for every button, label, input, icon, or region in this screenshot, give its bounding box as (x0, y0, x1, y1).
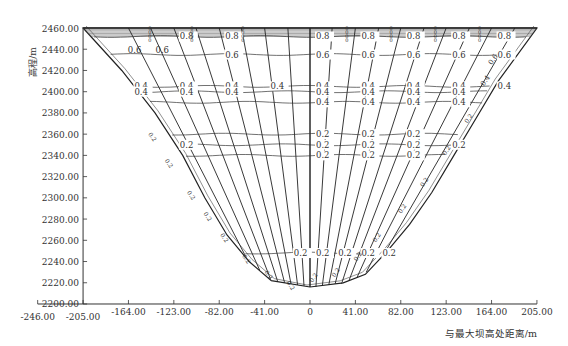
crest-contour-label: 0 (434, 37, 437, 43)
y-tick-label: 2240.00 (42, 257, 79, 267)
contour-label: 0.8 (498, 31, 512, 41)
svg-text:0.6: 0.6 (155, 45, 169, 55)
contour-label: 0.4 (407, 97, 421, 107)
flank-contour-label: 0.2 (371, 231, 382, 243)
x-tick-label: -205.00 (66, 312, 101, 322)
y-tick-label: 2420.00 (42, 66, 79, 76)
x-tick-label: -246.00 (20, 312, 55, 322)
contour-label: 0.8 (361, 31, 375, 41)
crest-contour-label: 0 (148, 37, 151, 43)
y-tick-label: 2440.00 (42, 45, 79, 55)
contour-label: 0.4 (316, 97, 330, 107)
flank-contour-label: 0.2 (186, 189, 197, 201)
y-tick-label: 2300.00 (42, 193, 79, 203)
y-tick-label: 2400.00 (42, 87, 79, 97)
x-tick-label: 0 (307, 307, 313, 317)
contour-label: 0.2 (361, 248, 375, 258)
contour-label: 0.2 (361, 129, 375, 139)
y-tick-label: 2280.00 (42, 215, 79, 225)
x-tick-label: -41.00 (250, 307, 279, 317)
x-tick-label: 41.00 (343, 307, 369, 317)
flank-contour-label: 0.2 (396, 202, 407, 214)
crest-contour-label: 0 (389, 37, 392, 43)
y-tick-label: 2380.00 (42, 108, 79, 118)
flank-contour-label: 0.2 (286, 279, 297, 291)
contour-label: 0.8 (316, 31, 330, 41)
contour-label: 0.2 (338, 248, 352, 258)
contour-label: 0.6 (407, 50, 421, 60)
y-tick-label: 2200.00 (42, 299, 79, 309)
contour-label: 0.2 (316, 140, 330, 150)
svg-text:0.6: 0.6 (128, 45, 142, 55)
y-tick-label: 2360.00 (42, 130, 79, 140)
crest-contour-label: 0 (190, 37, 193, 43)
x-tick-label: -123.00 (157, 307, 192, 317)
contour-label: 0.2 (361, 150, 375, 160)
y-tick-label: 2320.00 (42, 172, 79, 182)
section-line (151, 28, 260, 270)
x-tick-label: 123.00 (430, 307, 462, 317)
contour-label: 0.8 (407, 31, 421, 41)
contour-label: 0.2 (407, 150, 421, 160)
flank-contour-label: 0.2 (263, 269, 274, 281)
contour-label: 0.4 (498, 81, 512, 91)
x-axis-label: 与最大坝高处距离/m (445, 328, 537, 339)
contour-label: 0.4 (225, 87, 239, 97)
contour-label: 0.2 (316, 248, 330, 258)
flank-contour-label: 0.2 (164, 157, 175, 169)
contour-label: 0.2 (316, 150, 330, 160)
contour-label: 0.4 (180, 87, 194, 97)
y-tick-label: 2340.00 (42, 151, 79, 161)
crest-contour-label: 0 (478, 37, 481, 43)
contour-label: 0.2 (382, 248, 396, 258)
contour-label: 0.2 (361, 140, 375, 150)
x-tick-label: 164.00 (476, 307, 508, 317)
contour-label: 0.4 (452, 87, 466, 97)
crest-contour-label: 0 (345, 37, 348, 43)
contour-label: 0.6 (452, 50, 466, 60)
contour-label: 0.2 (407, 129, 421, 139)
y-tick-label: 2460.00 (42, 24, 79, 34)
section-line (219, 28, 284, 283)
y-tick-label: 2220.00 (42, 278, 79, 288)
axes: 2200.002220.002240.002260.002280.002300.… (20, 24, 553, 322)
plot-area: 0.80.80.80.80.80.80.80.60.60.60.60.60.60… (83, 25, 537, 291)
contour-label: 0.2 (316, 129, 330, 139)
flank-contour-label: 0.2 (147, 131, 158, 143)
contour-label: 0.6 (225, 50, 239, 60)
contour-label: 0.4 (271, 81, 285, 91)
contour-label: 0.8 (452, 31, 466, 41)
svg-text:0.4: 0.4 (479, 73, 492, 87)
contour-label: 0.2 (407, 140, 421, 150)
crest-contour-label: 0 (241, 37, 244, 43)
contour-label: 0.2 (180, 140, 194, 150)
contour-label: 0.4 (361, 97, 375, 107)
flank-contour-label: 0.2 (219, 232, 230, 244)
contour-label: 0.4 (316, 87, 330, 97)
contour-label: 0.8 (225, 31, 239, 41)
contour-label: 0.4 (452, 97, 466, 107)
contour-label: 0.2 (452, 140, 466, 150)
contour-label: 0.2 (294, 248, 308, 258)
contour-label: 0.4 (134, 87, 148, 97)
y-axis-label-vertical: 高程/m (27, 47, 38, 77)
y-tick-label: 2260.00 (42, 236, 79, 246)
contour-label: 0.6 (316, 50, 330, 60)
contour-chart: 0.80.80.80.80.80.80.80.60.60.60.60.60.60… (0, 0, 568, 346)
contour-label: 0.4 (361, 87, 375, 97)
contour-label: 0.6 (361, 50, 375, 60)
x-tick-label: 82.00 (388, 307, 414, 317)
contour-label: 0.4 (407, 87, 421, 97)
x-tick-label: 205.00 (521, 307, 553, 317)
x-tick-label: -164.00 (111, 307, 146, 317)
chart-svg: 0.80.80.80.80.80.80.80.60.60.60.60.60.60… (0, 0, 568, 346)
x-tick-label: -82.00 (205, 307, 234, 317)
contour-label: 0.6 (498, 50, 512, 60)
flank-contour-label: 0.2 (463, 112, 474, 124)
flank-contour-label: 0.2 (202, 210, 213, 222)
section-line (174, 28, 271, 280)
flank-contour-label: 0.2 (308, 271, 319, 283)
